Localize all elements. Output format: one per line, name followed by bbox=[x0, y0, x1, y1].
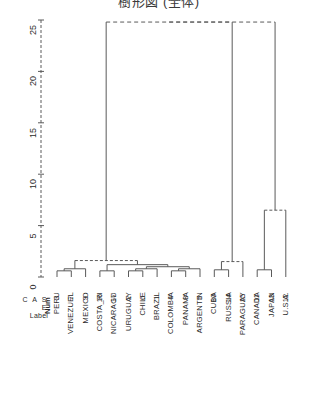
leaf-nicaragu: 17NICARAGU bbox=[108, 292, 120, 396]
leaf-label: CUBA bbox=[208, 292, 220, 348]
leaf-venezuel: 7VENEZUEL bbox=[65, 292, 77, 396]
leaf-label: URUGUAY bbox=[123, 292, 135, 348]
leaf-label: COLOMBIA bbox=[165, 292, 177, 348]
leaf-chile: 6CHILE bbox=[137, 292, 149, 396]
leaf-russia: 14RUSSIA bbox=[223, 292, 235, 396]
leaf-uruguay: 2URUGUAY bbox=[123, 292, 135, 396]
y-axis-tick-10: 10 bbox=[28, 173, 38, 195]
leaf-canada: 11CANADA bbox=[251, 292, 263, 396]
y-axis-tick-15: 15 bbox=[28, 122, 38, 144]
leaf-label: U.S.A. bbox=[280, 292, 292, 348]
leaf-label: JAPAN bbox=[266, 292, 278, 348]
leaf-paraguay: 15PARAGUAY bbox=[237, 292, 249, 396]
leaf-u-s-a: 12U.S.A. bbox=[280, 292, 292, 396]
dendrogram-figure: 樹形図 (全体) 0510152025 C A S E Label Num 3P… bbox=[0, 0, 318, 399]
leaf-label: NICARAGU bbox=[108, 292, 120, 348]
leaf-label: BRAZIL bbox=[151, 292, 163, 348]
leaf-label: PANAMA bbox=[180, 292, 192, 348]
y-axis-tick-20: 20 bbox=[28, 70, 38, 92]
leaf-colombia: 4COLOMBIA bbox=[165, 292, 177, 396]
y-axis-tick-25: 25 bbox=[28, 19, 38, 41]
leaf-label: PERU bbox=[51, 292, 63, 348]
leaf-label: RUSSIA bbox=[223, 292, 235, 348]
leaf-japan: 13JAPAN bbox=[266, 292, 278, 396]
leaf-label: CHILE bbox=[137, 292, 149, 348]
y-axis-tick-0: 0 bbox=[28, 276, 38, 298]
leaf-label: COSTA_RI bbox=[94, 292, 106, 348]
leaf-argentin: 5ARGENTIN bbox=[194, 292, 206, 396]
leaf-cuba: 10CUBA bbox=[208, 292, 220, 396]
leaf-label: VENEZUEL bbox=[65, 292, 77, 348]
leaf-brazil: 1BRAZIL bbox=[151, 292, 163, 396]
y-axis-tick-5: 5 bbox=[28, 225, 38, 247]
leaf-panama: 8PANAMA bbox=[180, 292, 192, 396]
leaf-costa-ri: 16COSTA_RI bbox=[94, 292, 106, 396]
leaf-label: MEXICO bbox=[80, 292, 92, 348]
leaf-mexico: 9MEXICO bbox=[80, 292, 92, 396]
leaf-peru: 3PERU bbox=[51, 292, 63, 396]
leaf-label: CANADA bbox=[251, 292, 263, 348]
leaf-label: ARGENTIN bbox=[194, 292, 206, 348]
leaf-label: PARAGUAY bbox=[237, 292, 249, 348]
